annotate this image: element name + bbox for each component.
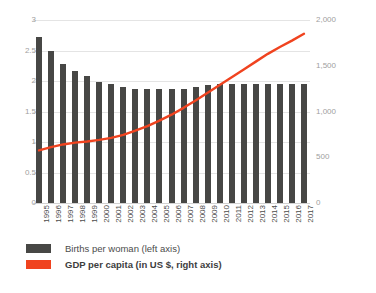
x-axis-tick: 2010 — [223, 205, 231, 223]
x-axis-tick: 2008 — [199, 205, 207, 223]
y-axis-right-tick: 1,000 — [316, 108, 336, 116]
x-axis-tick: 2016 — [295, 205, 303, 223]
chart-container: 1995199619971998199920002001200220032004… — [0, 0, 376, 293]
x-axis-tick: 2000 — [103, 205, 111, 223]
legend-item-gdp-per-capita: GDP per capita (in US $, right axis) — [26, 257, 222, 272]
x-axis-tick: 2014 — [271, 205, 279, 223]
x-axis-tick: 2001 — [115, 205, 123, 223]
legend-swatch-line-icon — [26, 260, 51, 269]
x-axis-tick: 2009 — [211, 205, 219, 223]
y-axis-left-tick: 2 — [32, 77, 36, 85]
x-axis-tick: 2005 — [163, 205, 171, 223]
y-axis-right-tick: 2,000 — [316, 16, 336, 24]
legend-item-births-per-woman: Births per woman (left axis) — [26, 241, 222, 256]
y-axis-left-tick: 3 — [32, 16, 36, 24]
x-axis-tick: 1995 — [43, 205, 51, 223]
line-series-gdp-per-capita — [33, 20, 310, 203]
y-axis-right-tick: 0 — [316, 199, 320, 207]
x-axis-tick: 2006 — [175, 205, 183, 223]
x-axis-tick: 2003 — [139, 205, 147, 223]
x-axis-tick: 2013 — [259, 205, 267, 223]
y-axis-left-tick: 0 — [32, 199, 36, 207]
y-axis-right-tick: 500 — [316, 153, 329, 161]
x-axis-tick: 1996 — [55, 205, 63, 223]
plot-area — [33, 20, 310, 203]
x-axis-tick: 2012 — [247, 205, 255, 223]
x-axis-tick: 2007 — [187, 205, 195, 223]
y-axis-right-tick: 1,500 — [316, 62, 336, 70]
legend-label-gdp-per-capita: GDP per capita (in US $, right axis) — [65, 259, 222, 270]
x-axis-tick: 2015 — [283, 205, 291, 223]
x-axis-tick: 1997 — [67, 205, 75, 223]
y-axis-left-tick: 1 — [32, 138, 36, 146]
x-axis-tick: 2011 — [235, 205, 243, 222]
x-axis-tick: 2017 — [307, 205, 315, 223]
legend-swatch-bar-icon — [26, 244, 51, 253]
x-axis-year-labels: 1995199619971998199920002001200220032004… — [33, 205, 310, 241]
y-axis-left-tick: 1.5 — [25, 108, 36, 116]
legend-label-births-per-woman: Births per woman (left axis) — [65, 243, 180, 254]
x-axis-tick: 1998 — [79, 205, 87, 223]
y-axis-left-tick: 0.5 — [25, 169, 36, 177]
x-axis-tick: 2004 — [151, 205, 159, 223]
x-axis-tick: 1999 — [91, 205, 99, 223]
x-axis-tick: 2002 — [127, 205, 135, 223]
y-axis-left-tick: 2.5 — [25, 47, 36, 55]
chart-legend: Births per woman (left axis) GDP per cap… — [26, 241, 222, 273]
